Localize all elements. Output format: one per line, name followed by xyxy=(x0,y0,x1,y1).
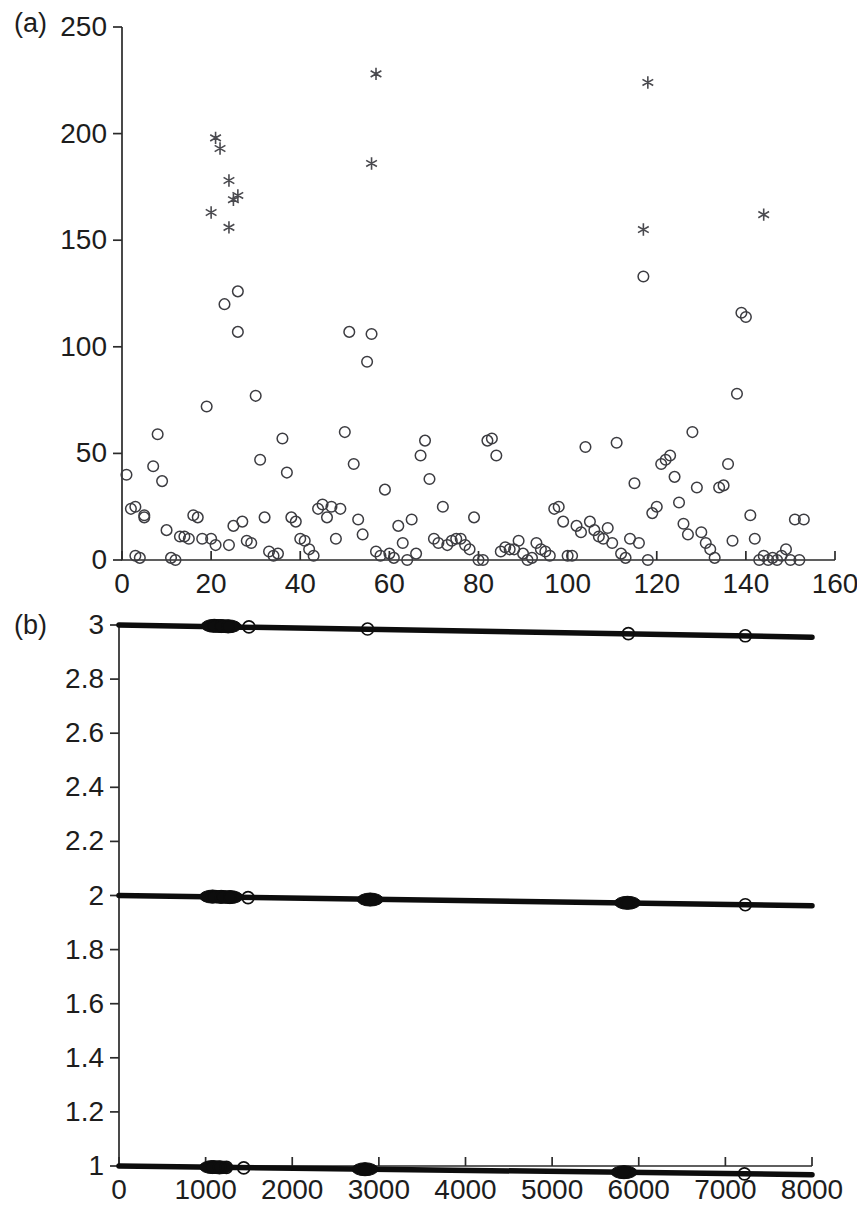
data-point-circle xyxy=(580,442,591,453)
data-point-circle xyxy=(148,461,159,472)
data-point-circle xyxy=(558,516,569,527)
data-point-circle xyxy=(692,482,703,493)
panel-a-axes xyxy=(122,27,835,560)
data-point-star xyxy=(224,174,235,186)
data-point-circle xyxy=(233,327,244,338)
band-marker-cluster xyxy=(217,891,243,904)
data-point-circle xyxy=(371,546,382,557)
data-point-circle xyxy=(250,391,261,402)
data-point-circle xyxy=(348,459,359,470)
panel-a-xtick-label: 160 xyxy=(812,568,857,599)
panel-b-ytick-label: 1.8 xyxy=(65,934,104,965)
panel-a-ytick-label: 150 xyxy=(60,224,107,255)
data-point-circle xyxy=(469,512,480,523)
panel-b-xtick-label: 2000 xyxy=(261,1174,323,1205)
panel-a-star-series xyxy=(206,68,769,236)
data-point-star xyxy=(366,157,377,169)
data-point-circle xyxy=(290,516,301,527)
data-point-circle xyxy=(353,514,364,525)
band-marker-cluster xyxy=(206,1161,232,1174)
panel-b-ytick-label: 1 xyxy=(88,1150,104,1181)
panel-b-bands: 11.21.41.61.822.22.42.62.830100020003000… xyxy=(65,609,843,1205)
panel-b-band xyxy=(119,890,812,911)
data-point-circle xyxy=(411,548,422,559)
data-point-circle xyxy=(286,512,297,523)
band-marker-cluster xyxy=(352,1163,378,1176)
data-point-circle xyxy=(607,538,618,549)
data-point-circle xyxy=(741,312,752,323)
data-point-circle xyxy=(727,536,738,547)
panel-b-band xyxy=(119,619,812,642)
panel-a-scatter: 050100150200250020406080100120140160 xyxy=(60,11,857,599)
panel-b-xtick-label: 4000 xyxy=(434,1174,496,1205)
data-point-circle xyxy=(362,356,373,367)
data-point-circle xyxy=(397,538,408,549)
data-point-circle xyxy=(219,299,230,310)
panel-a-ytick-label: 250 xyxy=(60,11,107,42)
panel-b-ytick-label: 2.4 xyxy=(65,771,104,802)
data-point-circle xyxy=(616,548,627,559)
data-point-circle xyxy=(513,536,524,547)
data-point-circle xyxy=(438,501,449,512)
panel-b-xtick-label: 6000 xyxy=(608,1174,670,1205)
panel-b-xtick-label: 0 xyxy=(111,1174,127,1205)
data-point-circle xyxy=(656,459,667,470)
data-point-circle xyxy=(161,525,172,536)
data-point-circle xyxy=(357,529,368,540)
data-point-circle xyxy=(420,435,431,446)
panel-a-ytick-label: 0 xyxy=(91,544,107,575)
panel-a-xtick-label: 60 xyxy=(374,568,405,599)
data-point-circle xyxy=(660,455,671,466)
data-point-circle xyxy=(464,544,475,555)
data-point-star xyxy=(638,223,649,235)
data-point-circle xyxy=(669,472,680,483)
data-point-circle xyxy=(732,388,743,399)
data-point-circle xyxy=(736,307,747,318)
data-point-circle xyxy=(687,427,698,438)
data-point-circle xyxy=(678,518,689,529)
panel-a-xtick-label: 120 xyxy=(633,568,680,599)
panel-b-ytick-label: 1.2 xyxy=(65,1096,104,1127)
data-point-circle xyxy=(406,514,417,525)
band-marker-cluster xyxy=(614,896,640,909)
band-marker-cluster xyxy=(357,893,383,906)
data-point-circle xyxy=(233,286,244,297)
data-point-star xyxy=(371,68,382,80)
data-point-circle xyxy=(620,553,631,564)
data-point-star xyxy=(215,142,226,154)
data-point-star xyxy=(206,206,217,218)
data-point-circle xyxy=(674,497,685,508)
panel-a-ytick-label: 200 xyxy=(60,118,107,149)
data-point-circle xyxy=(157,476,168,487)
data-point-circle xyxy=(322,512,333,523)
data-point-circle xyxy=(366,329,377,340)
data-point-circle xyxy=(424,474,435,485)
data-point-circle xyxy=(709,553,720,564)
data-point-circle xyxy=(611,437,622,448)
data-point-circle xyxy=(745,510,756,521)
panel-b-xtick-label: 5000 xyxy=(521,1174,583,1205)
data-point-circle xyxy=(313,504,324,515)
panel-a-ytick-label: 100 xyxy=(60,331,107,362)
panel-b-ytick-label: 2.6 xyxy=(65,717,104,748)
data-point-circle xyxy=(255,455,266,466)
data-point-circle xyxy=(665,450,676,461)
panel-a-xtick-label: 80 xyxy=(463,568,494,599)
panel-a-xtick-label: 100 xyxy=(544,568,591,599)
panel-b-ytick-label: 1.4 xyxy=(65,1042,104,1073)
data-point-star xyxy=(224,221,235,233)
panel-a-xtick-label: 140 xyxy=(723,568,770,599)
panel-b-ytick-label: 1.6 xyxy=(65,988,104,1019)
data-point-circle xyxy=(723,459,734,470)
panel-a-xtick-label: 0 xyxy=(114,568,130,599)
data-point-circle xyxy=(201,401,212,412)
panel-b-xtick-label: 8000 xyxy=(781,1174,843,1205)
panel-a-ytick-label: 50 xyxy=(76,437,107,468)
panel-b-ytick-label: 2.8 xyxy=(65,663,104,694)
panel-b-xtick-label: 1000 xyxy=(174,1174,236,1205)
data-point-circle xyxy=(340,427,351,438)
data-point-circle xyxy=(629,478,640,489)
panel-b-ytick-label: 2 xyxy=(88,880,104,911)
panel-b-ytick-label: 3 xyxy=(88,609,104,640)
data-point-circle xyxy=(277,433,288,444)
